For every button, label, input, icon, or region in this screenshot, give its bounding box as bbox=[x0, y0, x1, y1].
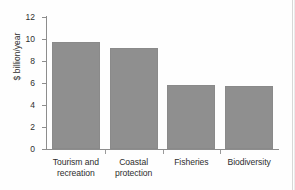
y-tick-mark bbox=[42, 149, 46, 150]
page-edge-line bbox=[292, 0, 293, 190]
y-tick-mark bbox=[42, 61, 46, 62]
y-tick-mark bbox=[42, 83, 46, 84]
bar bbox=[52, 42, 100, 149]
y-tick-label: 0 bbox=[0, 145, 41, 154]
page-edge-line-outer bbox=[294, 0, 295, 190]
y-tick-label: 4 bbox=[0, 101, 41, 110]
y-tick-mark bbox=[42, 39, 46, 40]
y-tick-label: 8 bbox=[0, 57, 41, 66]
x-category-label: Coastal protection bbox=[105, 157, 163, 178]
bar bbox=[225, 86, 273, 149]
x-tick-separator bbox=[163, 150, 164, 154]
y-tick-mark bbox=[42, 127, 46, 128]
x-tick-separator bbox=[105, 150, 106, 154]
x-category-label: Fisheries bbox=[163, 157, 221, 168]
x-category-label: Biodiversity bbox=[220, 157, 278, 168]
y-tick-label: 6 bbox=[0, 79, 41, 88]
y-tick-mark bbox=[42, 17, 46, 18]
x-category-label: Tourism and recreation bbox=[47, 157, 105, 178]
plot-area bbox=[47, 17, 278, 149]
bar bbox=[110, 48, 158, 149]
x-tick-separator bbox=[220, 150, 221, 154]
bar-chart-figure: $ billion/year 024681012 Tourism and rec… bbox=[0, 0, 295, 190]
y-tick-mark bbox=[42, 105, 46, 106]
bar bbox=[167, 85, 215, 149]
y-tick-label: 10 bbox=[0, 35, 41, 44]
y-tick-label: 2 bbox=[0, 123, 41, 132]
y-tick-label: 12 bbox=[0, 13, 41, 22]
